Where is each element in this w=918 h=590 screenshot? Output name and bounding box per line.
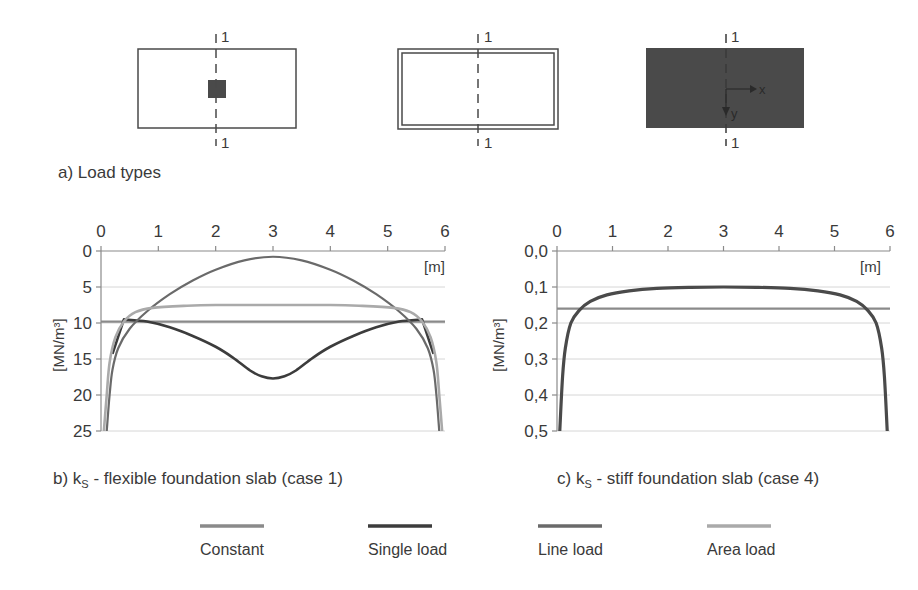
caption-suffix: - flexible foundation slab (case 1) [89,469,343,488]
chart-stiff-slab: 01234560,00,10,20,30,40,5 [m] [MN/m³] [490,222,895,441]
x-tick-label: 3 [719,222,728,241]
x-tick-label: 3 [268,222,277,241]
caption-panel-b: b) kS - flexible foundation slab (case 1… [53,469,343,490]
x-tick-label: 4 [774,222,783,241]
caption-panel-a: a) Load types [58,163,161,183]
chart-axes: 01234560510152025 [73,222,450,441]
y-tick-label: 10 [73,314,92,333]
axis-x-label: x [759,82,766,97]
figure: 1 1 1 1 x y 1 1 [0,0,918,590]
series-single-load [112,319,433,378]
x-axis-unit: [m] [424,258,445,275]
diagram-line-load: 1 1 [398,28,558,151]
y-axis-label: [MN/m³] [50,318,67,371]
x-tick-label: 0 [96,222,105,241]
x-tick-label: 1 [608,222,617,241]
caption-panel-c: c) kS - stiff foundation slab (case 4) [557,469,819,490]
y-axis-label: [MN/m³] [490,318,507,371]
y-tick-label: 0,4 [524,386,548,405]
x-tick-label: 5 [830,222,839,241]
caption-prefix: c) k [557,469,584,488]
x-tick-label: 5 [383,222,392,241]
legend-label-area-load: Area load [707,541,776,559]
y-tick-label: 0,2 [524,314,548,333]
axis-y-label: y [731,106,738,121]
diagram-single-load: 1 1 [138,28,296,151]
series-line-load [107,257,440,431]
x-axis-unit: [m] [860,258,881,275]
section-label-top: 1 [484,28,492,45]
x-tick-label: 0 [552,222,561,241]
single-load-square [208,80,226,98]
y-tick-label: 20 [73,386,92,405]
y-tick-label: 15 [73,350,92,369]
x-tick-label: 2 [211,222,220,241]
y-tick-label: 0,5 [524,422,548,441]
caption-subscript: S [81,478,88,490]
caption-suffix: - stiff foundation slab (case 4) [592,469,819,488]
section-label-bottom: 1 [484,134,492,151]
chart-series [101,257,445,431]
caption-subscript: S [584,478,591,490]
x-tick-label: 4 [326,222,335,241]
x-tick-label: 2 [663,222,672,241]
x-tick-label: 1 [154,222,163,241]
caption-prefix: b) k [53,469,81,488]
section-label-top: 1 [731,28,739,45]
x-tick-label: 6 [440,222,449,241]
legend-label-single-load: Single load [368,541,447,559]
diagram-area-load: x y 1 1 [646,28,804,151]
y-tick-label: 0,0 [524,242,548,261]
y-tick-label: 0,3 [524,350,548,369]
chart-axes: 01234560,00,10,20,30,40,5 [524,222,894,441]
y-tick-label: 0 [83,242,92,261]
section-label-bottom: 1 [221,134,229,151]
y-tick-label: 25 [73,422,92,441]
legend-label-constant: Constant [200,541,264,559]
x-tick-label: 6 [885,222,894,241]
y-tick-label: 0,1 [524,278,548,297]
legend-label-line-load: Line load [538,541,603,559]
y-tick-label: 5 [83,278,92,297]
figure-canvas: 1 1 1 1 x y 1 1 [0,0,918,590]
section-label-top: 1 [221,28,229,45]
chart-flexible-slab: 01234560510152025 [m] [MN/m³] [50,222,450,441]
section-label-bottom: 1 [731,134,739,151]
